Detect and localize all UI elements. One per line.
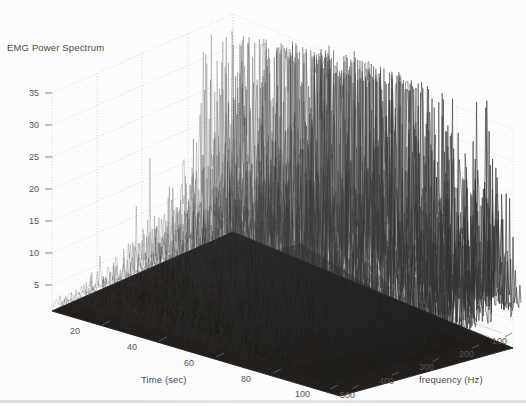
freq-tick-200: 200: [459, 349, 474, 359]
time-tick-100: 100: [295, 389, 310, 399]
time-tick-40: 40: [127, 342, 137, 352]
time-axis-label: Time (sec): [141, 374, 187, 385]
time-tick-20: 20: [70, 326, 80, 336]
frequency-axis-label: frequency (Hz): [419, 374, 483, 385]
power-tick-20: 20: [13, 184, 39, 194]
freq-tick-400: 400: [379, 376, 394, 386]
scan-artifact-line: [0, 400, 526, 403]
power-tick-25: 25: [13, 152, 39, 162]
freq-tick-500: 500: [340, 390, 355, 400]
chart-title: EMG Power Spectrum: [7, 42, 104, 53]
freq-tick-300: 300: [419, 362, 434, 372]
power-tick-15: 15: [13, 216, 39, 226]
chart-figure: EMG Power Spectrum 35 30 25 20 15 10 5 2…: [0, 0, 526, 406]
waterfall-3d-plot: [0, 0, 526, 406]
time-tick-60: 60: [184, 358, 194, 368]
power-tick-35: 35: [13, 88, 39, 98]
power-tick-5: 5: [13, 280, 39, 290]
time-tick-80: 80: [241, 374, 251, 384]
power-tick-30: 30: [13, 120, 39, 130]
freq-tick-100: 100: [492, 336, 507, 346]
power-tick-10: 10: [13, 248, 39, 258]
